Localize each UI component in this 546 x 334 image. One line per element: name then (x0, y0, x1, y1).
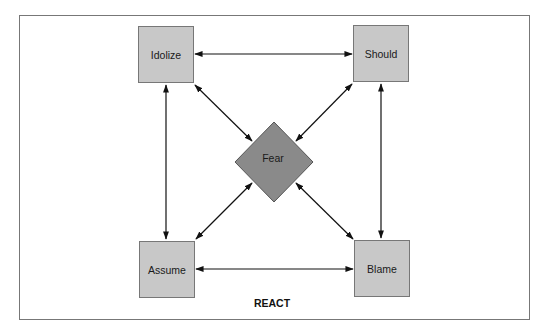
edge-idolize-fear (195, 85, 252, 141)
node-should: Should (353, 25, 409, 82)
edge-assume-fear (196, 183, 252, 239)
diagram-caption: REACT (232, 297, 312, 309)
node-label: Idolize (151, 49, 181, 61)
node-label: Assume (148, 264, 186, 276)
node-label: Blame (367, 263, 397, 275)
node-assume: Assume (139, 241, 195, 298)
node-label: Should (365, 48, 398, 60)
node-idolize: Idolize (138, 26, 194, 83)
edge-should-fear (296, 84, 352, 141)
arrows-layer (0, 0, 546, 334)
node-blame: Blame (354, 240, 410, 297)
edge-blame-fear (296, 183, 353, 239)
fear-label: Fear (243, 152, 303, 164)
